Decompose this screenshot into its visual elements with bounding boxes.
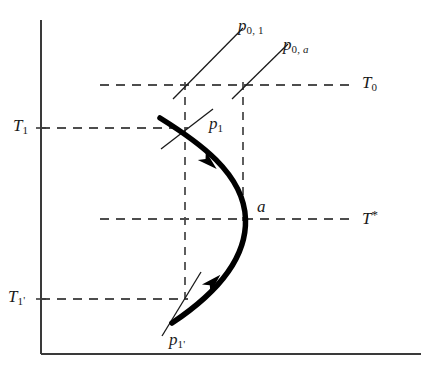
label-p1-prime: p1' <box>169 331 185 350</box>
label-T1: T1 <box>13 117 28 136</box>
label-p0-a-sub-prefix: 0, <box>292 43 304 55</box>
label-T1-prime: T1' <box>8 288 25 307</box>
label-p0-1: p0, 1 <box>238 17 264 36</box>
label-p1: p1 <box>209 115 223 134</box>
label-T0: T0 <box>362 74 377 93</box>
label-T0-sub: 0 <box>371 81 377 93</box>
label-p0-1-sub: 0, 1 <box>247 24 264 36</box>
label-p1-sub: 1 <box>218 122 224 134</box>
label-p1-prime-sub: 1' <box>178 338 186 350</box>
label-point-a: a <box>257 198 266 215</box>
label-T1-sub: 1 <box>22 124 28 136</box>
label-Tstar-sup: * <box>371 207 378 222</box>
label-Tstar: T* <box>362 208 378 227</box>
spinodal-curve <box>160 118 246 323</box>
label-p0-a-base: p <box>283 35 292 54</box>
tangent-line-p0-1 <box>173 28 243 99</box>
tangent-line-p0-a <box>232 44 288 99</box>
tangent-line-p1 <box>161 109 213 149</box>
label-p0-a: p0, a <box>283 36 309 55</box>
label-p1-base: p <box>209 114 218 133</box>
label-p0-a-sub-italic: a <box>303 43 309 55</box>
figure-container: p0, 1 p0, a p1 p1' a T0 T* T1 T1' <box>0 0 421 369</box>
label-p1-prime-base: p <box>169 330 178 349</box>
label-p0-1-base: p <box>238 16 247 35</box>
label-T1-prime-mark: ' <box>23 294 25 306</box>
label-point-a-base: a <box>257 197 266 216</box>
phase-diagram-canvas <box>0 0 421 369</box>
